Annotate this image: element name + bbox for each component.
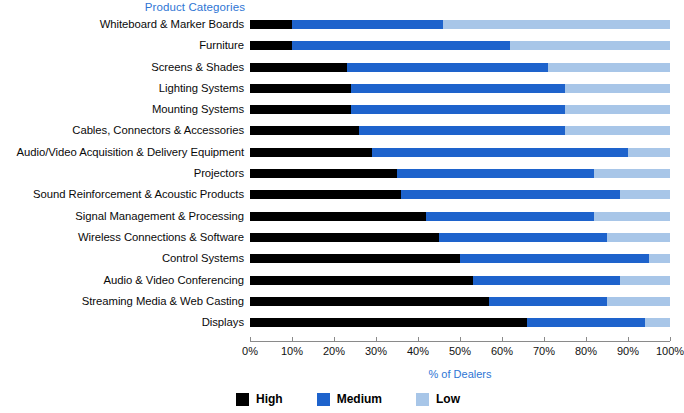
category-label: Signal Management & Processing <box>75 210 244 223</box>
bar-segment-high <box>250 63 347 72</box>
stacked-bar <box>250 84 670 93</box>
bar-segment-high <box>250 318 527 327</box>
bar-segment-low <box>649 254 670 263</box>
bar-segment-high <box>250 276 473 285</box>
x-axis-tick-label: 50% <box>449 345 471 357</box>
plot-area: Whiteboard & Marker BoardsFurnitureScree… <box>250 18 670 338</box>
stacked-bar <box>250 297 670 306</box>
bar-segment-medium <box>292 20 443 29</box>
stacked-bar <box>250 20 670 29</box>
stacked-bar <box>250 148 670 157</box>
category-label: Furniture <box>199 39 244 52</box>
bar-segment-medium <box>292 41 510 50</box>
bar-segment-high <box>250 84 351 93</box>
x-axis-tick <box>460 337 461 341</box>
x-axis-tick <box>502 337 503 341</box>
bar-segment-high <box>250 212 426 221</box>
bar-segment-low <box>443 20 670 29</box>
bar-row: Furniture <box>250 39 670 60</box>
bar-segment-low <box>510 41 670 50</box>
stacked-bar <box>250 254 670 263</box>
bar-segment-medium <box>439 233 607 242</box>
legend-swatch-icon <box>317 393 330 406</box>
category-label: Displays <box>202 316 244 329</box>
x-axis-line <box>250 341 670 342</box>
bar-row: Wireless Connections & Software <box>250 231 670 252</box>
stacked-bar <box>250 190 670 199</box>
x-axis-tick <box>670 337 671 341</box>
legend-swatch-icon <box>416 393 429 406</box>
x-axis-tick-label: 90% <box>617 345 639 357</box>
bar-row: Signal Management & Processing <box>250 210 670 231</box>
x-axis-tick <box>334 337 335 341</box>
category-label: Streaming Media & Web Casting <box>82 295 244 308</box>
bar-row: Cables, Connectors & Accessories <box>250 124 670 145</box>
stacked-bar <box>250 105 670 114</box>
x-axis-tick <box>292 337 293 341</box>
bar-rows: Whiteboard & Marker BoardsFurnitureScree… <box>250 18 670 337</box>
bar-segment-medium <box>359 126 565 135</box>
legend-label: Medium <box>337 392 382 406</box>
bar-segment-medium <box>527 318 645 327</box>
bar-segment-high <box>250 190 401 199</box>
x-axis-tick <box>586 337 587 341</box>
x-axis-tick <box>376 337 377 341</box>
bar-segment-high <box>250 20 292 29</box>
bar-segment-high <box>250 254 460 263</box>
x-axis-tick-label: 40% <box>407 345 429 357</box>
legend-label: Low <box>436 392 460 406</box>
bar-segment-high <box>250 105 351 114</box>
bar-segment-low <box>607 233 670 242</box>
stacked-bar <box>250 276 670 285</box>
bar-segment-low <box>565 84 670 93</box>
x-axis-tick <box>250 337 251 341</box>
bar-segment-medium <box>473 276 620 285</box>
category-label: Sound Reinforcement & Acoustic Products <box>33 188 244 201</box>
bar-segment-medium <box>372 148 628 157</box>
bar-segment-low <box>565 105 670 114</box>
legend-item-medium[interactable]: Medium <box>317 392 382 406</box>
bar-row: Control Systems <box>250 252 670 273</box>
bar-segment-medium <box>460 254 649 263</box>
x-axis-tick-label: 60% <box>491 345 513 357</box>
bar-segment-medium <box>347 63 549 72</box>
category-label: Wireless Connections & Software <box>78 231 244 244</box>
bar-segment-low <box>565 126 670 135</box>
bar-row: Sound Reinforcement & Acoustic Products <box>250 188 670 209</box>
bar-row: Streaming Media & Web Casting <box>250 295 670 316</box>
category-label: Projectors <box>194 167 244 180</box>
bar-segment-medium <box>397 169 594 178</box>
x-axis-tick-label: 70% <box>533 345 555 357</box>
category-axis-title: Product Categories <box>0 1 245 13</box>
category-label: Cables, Connectors & Accessories <box>72 124 244 137</box>
category-label: Mounting Systems <box>152 103 244 116</box>
bar-segment-low <box>628 148 670 157</box>
legend-item-low[interactable]: Low <box>416 392 460 406</box>
bar-segment-low <box>607 297 670 306</box>
x-axis-tick-label: 20% <box>323 345 345 357</box>
bar-row: Displays <box>250 316 670 337</box>
x-axis-tick-label: 30% <box>365 345 387 357</box>
stacked-bar <box>250 318 670 327</box>
bar-segment-low <box>620 190 670 199</box>
stacked-bar <box>250 63 670 72</box>
bar-segment-high <box>250 126 359 135</box>
bar-segment-medium <box>401 190 619 199</box>
bar-row: Audio & Video Conferencing <box>250 274 670 295</box>
bar-row: Whiteboard & Marker Boards <box>250 18 670 39</box>
bar-segment-high <box>250 148 372 157</box>
chart-legend: HighMediumLow <box>236 392 494 406</box>
bar-segment-low <box>548 63 670 72</box>
bar-segment-medium <box>351 105 565 114</box>
category-label: Audio/Video Acquisition & Delivery Equip… <box>17 146 244 159</box>
stacked-bar <box>250 41 670 50</box>
x-axis-title: % of Dealers <box>250 368 670 380</box>
bar-segment-medium <box>351 84 565 93</box>
x-axis-tick <box>544 337 545 341</box>
bar-segment-high <box>250 297 489 306</box>
legend-item-high[interactable]: High <box>236 392 283 406</box>
bar-segment-high <box>250 233 439 242</box>
bar-row: Mounting Systems <box>250 103 670 124</box>
bar-segment-low <box>594 212 670 221</box>
